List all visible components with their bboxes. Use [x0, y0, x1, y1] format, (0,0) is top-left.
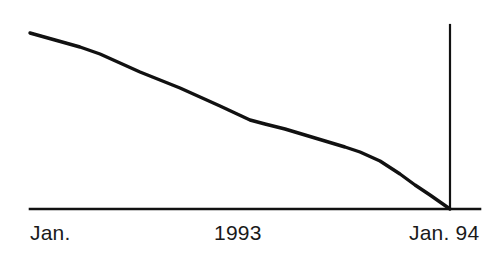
- x-axis-tick-label-start: Jan.: [30, 222, 71, 243]
- x-axis-tick-label-mid: 1993: [214, 222, 262, 243]
- trend-line: [30, 33, 450, 209]
- line-chart-figure: Jan. 1993 Jan. 94: [0, 0, 494, 261]
- x-axis-tick-label-end: Jan. 94: [409, 222, 479, 243]
